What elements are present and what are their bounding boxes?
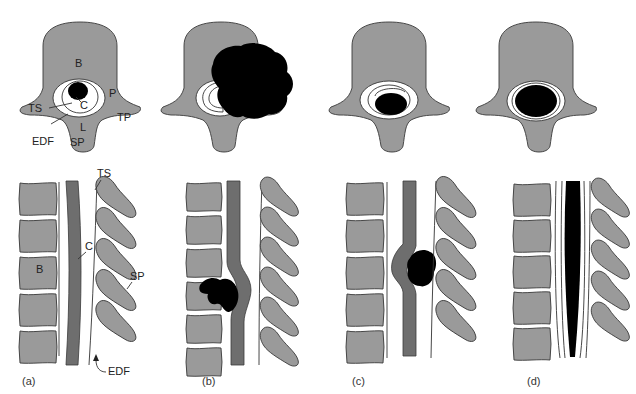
vertebral-body (19, 294, 57, 326)
label-sag-cord: C (85, 240, 93, 252)
vertebral-body (346, 220, 384, 252)
panel-b-sagittal (186, 177, 298, 376)
caption-b: (b) (202, 375, 215, 387)
vertebral-body (186, 348, 222, 376)
spinal-cord (66, 181, 81, 365)
vertebral-body (513, 256, 551, 288)
panel-d-sagittal (513, 178, 629, 360)
label-thecal-sac: TS (28, 102, 42, 114)
panel-c-sagittal (346, 176, 476, 363)
vertebral-body (513, 328, 551, 360)
label-sag-extradural-fat: EDF (108, 365, 130, 377)
label-extradural-fat: EDF (32, 135, 54, 147)
vertebral-body (513, 220, 551, 252)
vertebral-body (19, 183, 57, 215)
label-body: B (75, 57, 82, 69)
vertebral-body (186, 315, 222, 343)
vertebral-body (346, 257, 384, 289)
sag-edf-leader (96, 360, 106, 372)
compressed-cord (227, 181, 251, 365)
caption-a: (a) (22, 375, 35, 387)
label-lamina: L (80, 121, 86, 133)
thecal-sac-line (89, 181, 97, 365)
vertebral-body (19, 220, 57, 252)
vertebral-body (186, 216, 222, 244)
vertebral-body (19, 331, 57, 363)
panel-c-axial (329, 22, 449, 152)
vertebral-body (346, 294, 384, 326)
pia-line-right (580, 181, 585, 358)
expanded-cord (515, 85, 557, 117)
vertebral-body (186, 183, 222, 211)
thecal-sac-line-left (555, 181, 560, 358)
caption-c: (c) (352, 375, 365, 387)
label-sag-body: B (36, 263, 43, 275)
expanded-cord (565, 181, 581, 357)
label-spinous-process: SP (70, 136, 85, 148)
panel-b-axial (161, 22, 293, 152)
panel-a-axial: B C TS P TP L SP EDF (20, 22, 140, 152)
label-pedicle: P (109, 87, 116, 99)
vertebral-body (186, 249, 222, 277)
vertebral-body (513, 184, 551, 216)
label-cord: C (80, 99, 88, 111)
vertebral-body (513, 292, 551, 324)
sag-sp-leader (127, 282, 132, 289)
spinal-cord (68, 82, 88, 100)
compressed-cord (375, 93, 407, 115)
label-sag-spinous-process: SP (130, 270, 145, 282)
label-transverse-process: TP (117, 111, 131, 123)
label-sag-thecal-sac: TS (97, 167, 111, 179)
caption-d: (d) (527, 375, 540, 387)
thecal-sac-line-right (586, 181, 590, 358)
pia-line-left (561, 181, 565, 358)
edf-arrow-icon (93, 354, 99, 361)
panel-d-axial (476, 22, 596, 152)
spinal-compression-figure: B C TS P TP L SP EDF TS C B SP (0, 0, 636, 394)
vertebral-body (346, 331, 384, 363)
tumour-mass (211, 43, 293, 119)
vertebral-body (346, 183, 384, 215)
